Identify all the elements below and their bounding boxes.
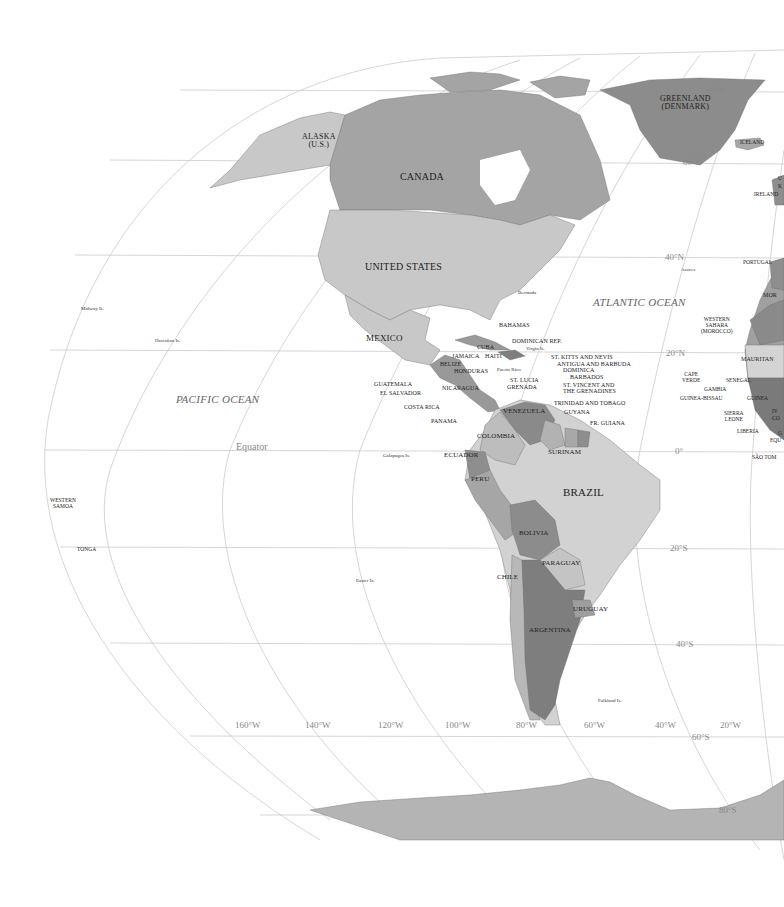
- antarctica-shape: [310, 778, 784, 840]
- land: [210, 72, 784, 840]
- lat-20s-label: 20°S: [670, 544, 688, 553]
- lon-80w-label: 80°W: [516, 721, 537, 730]
- trinidad-label: TRINIDAD AND TOBAGO: [554, 400, 625, 406]
- lat-20n-label: 20°N: [666, 349, 685, 358]
- ivory-coast-partial-2: CO: [772, 416, 780, 422]
- lat-60n-label: 60°N: [683, 158, 702, 167]
- cape-verde-label: CAPE VERDE: [682, 372, 700, 384]
- uruguay-label: URUGUAY: [573, 606, 608, 613]
- haiti-label: HAITI: [485, 353, 502, 359]
- guyana-label: GUYANA: [564, 409, 590, 415]
- fr-guiana-shape: [578, 430, 590, 447]
- lon-140w-label: 140°W: [305, 721, 331, 730]
- costa-rica-label: COSTA RICA: [404, 404, 440, 410]
- atlantic-ocean-label: ATLANTIC OCEAN: [593, 297, 686, 309]
- lat-0-label: 0°: [675, 447, 683, 456]
- lon-20w-label: 20°W: [720, 721, 741, 730]
- western-sahara-line3: (MOROCCO): [701, 329, 732, 335]
- guatemala-label: GUATEMALA: [374, 381, 412, 387]
- lat-80s-label: 80°S: [719, 806, 737, 815]
- western-sahara-label: WESTERN SAHARA (MOROCCO): [701, 317, 732, 334]
- peru-label: PERU: [471, 476, 489, 483]
- iberia-shape: [770, 258, 784, 290]
- alaska-label: ALASKA (U.S.): [302, 133, 336, 150]
- puerto-rico-label: Puerto Rico: [497, 367, 521, 372]
- iceland-label: ICELAND: [740, 140, 764, 146]
- sierra-leone-line2: LEONE: [724, 417, 744, 423]
- virgin-islands-label: Virgin Is.: [526, 346, 545, 351]
- eq-partial-2: EQU: [770, 438, 781, 444]
- western-samoa-label: WESTERN SAMOA: [50, 498, 76, 510]
- chile-label: CHILE: [497, 574, 518, 581]
- panama-label: PANAMA: [431, 418, 457, 424]
- tonga-label: TONGA: [77, 547, 96, 553]
- lat-40n-label: 40°N: [665, 253, 684, 262]
- uk-partial-label-2: K: [778, 184, 782, 190]
- sao-tome-label: SÃO TOM: [752, 455, 776, 461]
- jamaica-label: JAMAICA: [452, 353, 479, 359]
- morocco-partial-label: MOR: [763, 292, 777, 298]
- greenland-shape: [600, 78, 765, 165]
- dominica-label: DOMINICA: [563, 367, 594, 373]
- venezuela-label: VENEZUELA: [503, 408, 546, 415]
- gambia-label: GAMBIA: [704, 387, 726, 393]
- argentina-label: ARGENTINA: [529, 627, 571, 634]
- bahamas-label: BAHAMAS: [499, 322, 530, 328]
- lon-100w-label: 100°W: [445, 721, 471, 730]
- bolivia-label: BOLIVIA: [519, 530, 548, 537]
- ecuador-label: ECUADOR: [444, 452, 479, 459]
- fr-guiana-label: FR. GUIANA: [590, 420, 625, 426]
- st-kitts-label: ST. KITTS AND NEVIS: [551, 354, 613, 360]
- western-samoa-line2: SAMOA: [50, 504, 76, 510]
- azores-label: Azores: [681, 267, 695, 272]
- hispaniola-shape: [498, 350, 525, 360]
- barbados-label: BARBADOS: [570, 374, 603, 380]
- st-lucia-label: ST. LUCIA: [510, 377, 539, 383]
- dominican-rep-label: DOMINICAN REP.: [512, 338, 562, 344]
- greenland-sub: (DENMARK): [660, 103, 711, 111]
- eq-partial-1: G: [778, 431, 782, 437]
- alaska-sub: (U.S.): [302, 141, 336, 149]
- lat-40s-label: 40°S: [676, 640, 694, 649]
- galapagos-label: Galapagos Is.: [383, 453, 410, 458]
- liberia-label: LIBERIA: [737, 429, 759, 435]
- guinea-bissau-label: GUINEA-BISSAU: [680, 396, 722, 402]
- easter-label: Easter Is.: [356, 578, 375, 583]
- lon-40w-label: 40°W: [655, 721, 676, 730]
- canada-shape: [330, 90, 610, 225]
- hawaiian-label: Hawaiian Is.: [155, 338, 180, 343]
- brazil-label: BRAZIL: [563, 487, 604, 499]
- lon-160w-label: 160°W: [235, 721, 261, 730]
- lon-60w-label: 60°W: [584, 721, 605, 730]
- mauritania-partial-label: MAURITAN: [741, 356, 774, 362]
- bermuda-label: Bermuda: [518, 290, 536, 295]
- portugal-label: PORTUGAL: [743, 260, 772, 266]
- cape-verde-line2: VERDE: [682, 378, 700, 384]
- honduras-label: HONDURAS: [454, 368, 488, 374]
- suriname-shape: [565, 428, 578, 447]
- greenland-label: GREENLAND (DENMARK): [660, 95, 711, 112]
- st-vincent-label: ST. VINCENT AND THE GRENADINES: [563, 382, 616, 395]
- belize-label: BELIZE: [440, 361, 461, 367]
- uk-partial-label-1: U: [778, 176, 782, 182]
- lon-120w-label: 120°W: [378, 721, 404, 730]
- cuba-label: CUBA: [477, 344, 494, 350]
- senegal-label: SENEGAL: [726, 378, 751, 384]
- ireland-label: IRELAND: [754, 192, 778, 198]
- suriname-label: SURINAM: [548, 449, 581, 456]
- ivory-coast-partial-1: IV: [772, 409, 778, 415]
- colombia-label: COLOMBIA: [477, 433, 515, 440]
- falkland-label: Falkland Is.: [598, 698, 622, 703]
- st-vincent-line2: THE GRENADINES: [563, 388, 616, 394]
- equator-label: Equator: [236, 442, 268, 453]
- united-states-label: UNITED STATES: [365, 262, 442, 273]
- canada-label: CANADA: [400, 172, 444, 183]
- el-salvador-label: EL SALVADOR: [380, 390, 421, 396]
- midway-label: Midway Is.: [81, 306, 104, 311]
- mexico-label: MEXICO: [366, 334, 403, 343]
- pacific-ocean-label: PACIFIC OCEAN: [176, 394, 259, 406]
- nicaragua-label: NICARAGUA: [442, 385, 479, 391]
- grenada-label: GRENADA: [507, 384, 537, 390]
- sierra-leone-label: SIERRA LEONE: [724, 411, 744, 423]
- guinea-label: GUINEA: [747, 396, 768, 402]
